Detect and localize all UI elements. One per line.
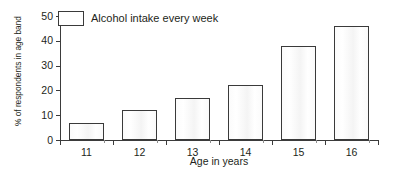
bar-chart: % of respondents in age band 01020304050…: [0, 0, 397, 180]
y-axis-tick-label: 20: [41, 84, 53, 96]
y-axis-tick-label: 50: [41, 10, 53, 22]
legend-label-alcohol-intake: Alcohol intake every week: [91, 12, 218, 25]
x-axis-tick: [113, 140, 114, 145]
legend: Alcohol intake every week: [58, 11, 218, 26]
x-axis-tick: [272, 140, 273, 145]
y-axis-tick: 20: [56, 90, 61, 91]
legend-swatch-alcohol-intake: [58, 11, 84, 26]
y-axis-tick: 30: [56, 66, 61, 67]
plot-area: 01020304050 111213141516: [60, 16, 378, 140]
x-axis-tick: [325, 140, 326, 145]
bar-age-14: [228, 85, 263, 140]
x-axis-minor-tick: [104, 140, 105, 143]
y-axis-tick: 10: [56, 115, 61, 116]
y-axis-tick-label: 40: [41, 34, 53, 46]
x-axis-tick: [219, 140, 220, 145]
y-axis-tick-label: 0: [47, 134, 53, 146]
x-axis-minor-tick: [210, 140, 211, 143]
bar-age-13: [175, 98, 210, 140]
x-axis-minor-tick: [369, 140, 370, 143]
y-axis-line: [60, 16, 61, 140]
x-axis-minor-tick: [316, 140, 317, 143]
bar-age-12: [122, 110, 157, 140]
bar-age-16: [334, 26, 369, 140]
x-axis-tick: [166, 140, 167, 145]
bar-age-15: [281, 46, 316, 140]
x-axis-tick: [378, 140, 379, 145]
y-axis-tick-label: 10: [41, 109, 53, 121]
x-axis-minor-tick: [157, 140, 158, 143]
x-axis-tick: [60, 140, 61, 145]
x-axis-title: Age in years: [60, 155, 378, 167]
y-axis-tick: 40: [56, 41, 61, 42]
bar-age-11: [69, 123, 104, 140]
y-axis-tick-label: 30: [41, 59, 53, 71]
x-axis-minor-tick: [263, 140, 264, 143]
y-axis-title: % of respondents in age band: [13, 0, 23, 146]
